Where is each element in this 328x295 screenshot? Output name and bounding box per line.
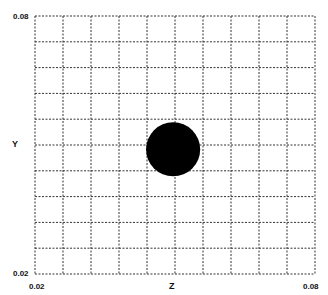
x-tick-left: 0.02	[29, 282, 45, 291]
y-axis-label: Y	[12, 139, 18, 149]
y-tick-bottom: 0.02	[13, 269, 29, 278]
y-tick-top: 0.08	[13, 12, 29, 21]
x-axis-label: Z	[169, 281, 175, 291]
data-point-circle	[146, 122, 200, 176]
plot-area	[0, 0, 328, 295]
x-tick-right: 0.08	[303, 282, 319, 291]
